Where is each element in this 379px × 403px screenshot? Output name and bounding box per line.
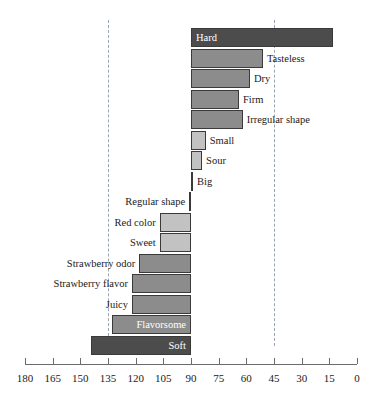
- bar-sour[interactable]: [191, 151, 202, 170]
- bar-regular-shape[interactable]: [189, 192, 191, 211]
- bar-label-firm: Firm: [243, 91, 263, 108]
- bar-chart: HardTastelessDryFirmIrregular shapeSmall…: [0, 0, 379, 403]
- bar-label-dry: Dry: [254, 70, 270, 87]
- bar-label-tasteless: Tasteless: [267, 50, 305, 67]
- bar-row: Irregular shape: [0, 110, 379, 130]
- bar-row: Regular shape: [0, 192, 379, 212]
- bar-label-soft: Soft: [0, 337, 186, 354]
- axis-tick: [357, 358, 358, 364]
- bar-label-sweet: Sweet: [0, 234, 156, 251]
- bar-sweet[interactable]: [160, 233, 191, 252]
- bar-label-red-color: Red color: [0, 214, 156, 231]
- axis-tick: [246, 358, 247, 364]
- bar-label-hard: Hard: [196, 29, 217, 46]
- axis-tick-label: 45: [269, 372, 280, 384]
- bar-row: Hard: [0, 28, 379, 48]
- bar-label-regular-shape: Regular shape: [0, 193, 185, 210]
- bar-label-strawberry-flavor: Strawberry flavor: [0, 275, 128, 292]
- bar-irregular-shape[interactable]: [191, 110, 243, 129]
- axis-tick: [163, 358, 164, 364]
- bar-small[interactable]: [191, 131, 206, 150]
- axis-tick-label: 0: [354, 372, 360, 384]
- bar-firm[interactable]: [191, 90, 239, 109]
- axis-tick-label: 60: [241, 372, 252, 384]
- bar-dry[interactable]: [191, 69, 250, 88]
- bar-label-irregular-shape: Irregular shape: [247, 111, 310, 128]
- axis-tick-label: 180: [17, 372, 34, 384]
- axis-tick-label: 135: [100, 372, 117, 384]
- bar-label-small: Small: [210, 132, 235, 149]
- axis-tick: [136, 358, 137, 364]
- axis-tick: [219, 358, 220, 364]
- axis-tick-label: 15: [324, 372, 335, 384]
- bar-row: Dry: [0, 69, 379, 89]
- bar-label-juicy: Juicy: [0, 296, 128, 313]
- axis-tick: [80, 358, 81, 364]
- bar-row: Flavorsome: [0, 315, 379, 335]
- bar-tasteless[interactable]: [191, 49, 263, 68]
- axis-tick: [274, 358, 275, 364]
- axis-tick: [302, 358, 303, 364]
- bar-row: Small: [0, 131, 379, 151]
- axis-tick-label: 165: [44, 372, 61, 384]
- bar-row: Sweet: [0, 233, 379, 253]
- bar-row: Firm: [0, 90, 379, 110]
- bar-row: Strawberry flavor: [0, 274, 379, 294]
- bar-strawberry-odor[interactable]: [139, 254, 191, 273]
- bar-juicy[interactable]: [132, 295, 191, 314]
- axis-tick: [329, 358, 330, 364]
- axis-tick-label: 120: [127, 372, 144, 384]
- axis-tick-label: 90: [186, 372, 197, 384]
- bar-row: Strawberry odor: [0, 254, 379, 274]
- axis-tick-label: 105: [155, 372, 172, 384]
- bar-row: Sour: [0, 151, 379, 171]
- bar-label-flavorsome: Flavorsome: [0, 316, 186, 333]
- plot-area: HardTastelessDryFirmIrregular shapeSmall…: [0, 0, 379, 358]
- axis-line: [25, 364, 357, 365]
- bar-label-sour: Sour: [206, 152, 226, 169]
- bar-row: Soft: [0, 336, 379, 356]
- axis-tick-label: 75: [213, 372, 224, 384]
- bar-row: Tasteless: [0, 49, 379, 69]
- bar-big[interactable]: [191, 172, 193, 191]
- bar-strawberry-flavor[interactable]: [132, 274, 191, 293]
- bar-red-color[interactable]: [160, 213, 191, 232]
- bar-row: Big: [0, 172, 379, 192]
- bar-row: Juicy: [0, 295, 379, 315]
- bar-row: Red color: [0, 213, 379, 233]
- axis-tick-label: 150: [72, 372, 89, 384]
- axis-tick: [191, 358, 192, 364]
- axis-tick: [108, 358, 109, 364]
- axis-tick: [25, 358, 26, 364]
- axis-tick-label: 30: [296, 372, 307, 384]
- axis-tick: [53, 358, 54, 364]
- bar-label-strawberry-odor: Strawberry odor: [0, 255, 135, 272]
- bar-label-big: Big: [197, 173, 212, 190]
